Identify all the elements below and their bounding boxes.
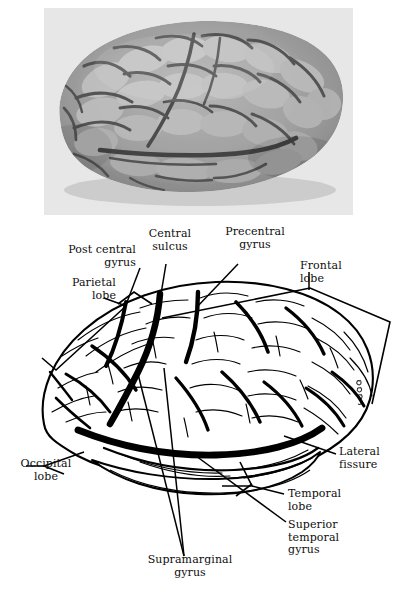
label-parietal-lobe: Parietal lobe: [44, 277, 116, 302]
label-frontal-lobe: Frontal lobe: [300, 260, 370, 285]
label-central-sulcus: Central sulcus: [134, 228, 206, 253]
label-occipital-lobe: Occipital lobe: [10, 458, 82, 483]
brain-photograph-panel: [44, 8, 353, 215]
anatomical-figure: Post central gyrus Central sulcus Precen…: [0, 0, 407, 594]
label-temporal-lobe: Temporal lobe: [288, 488, 366, 513]
label-precentral-gyrus: Precentral gyrus: [214, 226, 296, 251]
label-supramarginal-gyrus: Supramarginal gyrus: [120, 554, 260, 579]
label-lateral-fissure: Lateral fissure: [339, 446, 405, 471]
label-post-central-gyrus: Post central gyrus: [40, 244, 136, 269]
label-superior-temporal-gyrus: Superior temporal gyrus: [288, 519, 364, 557]
brain-photograph: [44, 8, 353, 215]
